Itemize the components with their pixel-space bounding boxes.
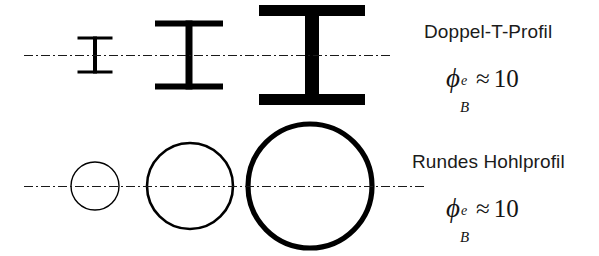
doppel-t-profil-label: Doppel-T-Profil — [424, 21, 552, 43]
rundes-hohlprofil-label: Rundes Hohlprofil — [412, 151, 565, 173]
phi-subscript-b: B — [460, 223, 469, 251]
phi-superscript-e: e — [461, 67, 467, 95]
profile-comparison-figure: Doppel-T-Profil ϕeB≈10 Rundes Hohlprofil… — [0, 0, 599, 256]
rundes-hohlprofil-row-shapes — [24, 124, 426, 248]
phi-symbol: ϕ — [446, 64, 460, 92]
formula-value: 10 — [494, 195, 519, 222]
phi-superscript-e: e — [461, 197, 467, 225]
phi-subscript-b: B — [460, 93, 469, 121]
doppel-t-row-shapes — [24, 5, 391, 105]
phi-symbol: ϕ — [446, 194, 460, 222]
doppel-t-profil-formula: ϕeB≈10 — [446, 64, 519, 93]
formula-value: 10 — [494, 65, 519, 92]
rundes-hohlprofil-formula: ϕeB≈10 — [446, 194, 519, 223]
